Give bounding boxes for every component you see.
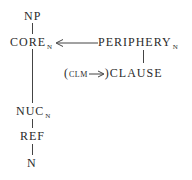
node-np: NP — [24, 10, 41, 23]
node-periphery-subscript: N — [173, 43, 178, 51]
node-nuc-subscript: N — [45, 112, 50, 120]
node-nuc-label: NUC — [16, 104, 44, 118]
node-clause-label: CLAUSE — [110, 66, 163, 80]
node-np-label: NP — [24, 9, 41, 23]
node-core-label: CORE — [10, 35, 46, 49]
arrow-right-icon — [89, 70, 105, 78]
edge-ref-n — [32, 144, 33, 155]
clm-label: CLM — [69, 70, 88, 79]
node-core-subscript: N — [47, 43, 52, 51]
edge-core-nuc — [32, 49, 33, 103]
node-nuc: NUCN — [16, 105, 50, 120]
node-clause: (CLM)CLAUSE — [64, 67, 163, 81]
edge-nuc-ref — [32, 119, 33, 128]
node-ref: REF — [20, 130, 45, 143]
node-n-label: N — [27, 156, 37, 170]
arrow-left-icon — [54, 38, 98, 48]
node-periphery-label: PERIPHERY — [98, 35, 172, 49]
edge-np-core — [32, 23, 33, 34]
node-n: N — [27, 157, 37, 170]
node-periphery: PERIPHERYN — [98, 36, 178, 51]
edge-periphery-clause — [143, 50, 144, 63]
node-ref-label: REF — [20, 129, 45, 143]
